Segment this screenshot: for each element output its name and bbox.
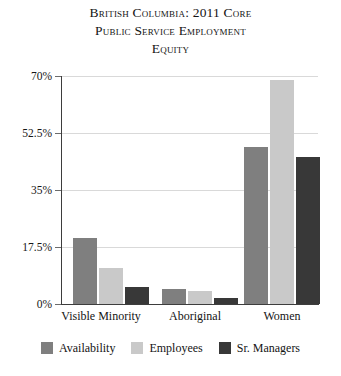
y-tick-label-0: 0% bbox=[37, 298, 52, 310]
bar-women-availability bbox=[244, 147, 268, 304]
y-tick-label-17-5: 17.5% bbox=[22, 241, 52, 253]
legend-entry-sr-managers: Sr. Managers bbox=[219, 341, 300, 355]
bar-women-sr-managers bbox=[296, 157, 320, 304]
bar-visible-minority-employees bbox=[99, 268, 123, 304]
y-tick-label-70: 70% bbox=[31, 70, 52, 82]
bar-visible-minority-availability bbox=[73, 238, 97, 304]
y-tick-mark-0 bbox=[55, 304, 61, 305]
x-axis-line bbox=[61, 304, 319, 305]
legend-label-availability: Availability bbox=[59, 341, 115, 355]
chart-title: British Columbia: 2011 Core Public Servi… bbox=[0, 4, 341, 58]
gridline-70 bbox=[62, 76, 318, 77]
legend-label-sr-managers: Sr. Managers bbox=[237, 341, 300, 355]
y-tick-mark-17-5 bbox=[55, 247, 61, 248]
legend-entry-employees: Employees bbox=[131, 341, 202, 355]
y-tick-mark-35 bbox=[55, 190, 61, 191]
plot-area bbox=[62, 76, 318, 304]
bar-aboriginal-sr-managers bbox=[214, 298, 238, 304]
y-tick-label-52-5: 52.5% bbox=[22, 127, 52, 139]
chart-title-line-3: Equity bbox=[0, 40, 341, 58]
x-tick-label-visible-minority: Visible Minority bbox=[53, 309, 149, 324]
bar-aboriginal-employees bbox=[188, 291, 212, 304]
y-tick-label-35: 35% bbox=[31, 184, 52, 196]
bar-women-employees bbox=[270, 80, 294, 304]
chart-title-line-2: Public Service Employment bbox=[0, 22, 341, 40]
legend-swatch-sr-managers-icon bbox=[219, 342, 231, 354]
x-tick-label-women: Women bbox=[244, 309, 320, 324]
chart-title-line-1: British Columbia: 2011 Core bbox=[0, 4, 341, 22]
legend-entry-availability: Availability bbox=[41, 341, 115, 355]
legend-swatch-employees-icon bbox=[131, 342, 143, 354]
y-tick-mark-52-5 bbox=[55, 133, 61, 134]
legend-swatch-availability-icon bbox=[41, 342, 53, 354]
y-tick-mark-70 bbox=[55, 76, 61, 77]
bar-aboriginal-availability bbox=[162, 289, 186, 304]
chart-legend: Availability Employees Sr. Managers bbox=[0, 341, 341, 355]
legend-label-employees: Employees bbox=[149, 341, 202, 355]
x-tick-label-aboriginal: Aboriginal bbox=[155, 309, 235, 324]
bar-visible-minority-sr-managers bbox=[125, 287, 149, 304]
